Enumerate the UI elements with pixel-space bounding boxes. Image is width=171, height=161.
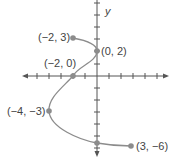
point-label-0-2: (0, 2) <box>101 46 127 57</box>
y-axis-label: y <box>105 5 111 17</box>
y-axis-down-arrow-icon <box>95 151 100 157</box>
point-label-neg2-0: (−2, 0) <box>44 58 76 69</box>
point-label-neg4-neg3: (−4, −3) <box>7 106 46 117</box>
x-axis-left-arrow-icon <box>22 74 28 79</box>
coordinate-plane <box>0 0 171 161</box>
point-label-3-neg6: (3, −6) <box>136 141 168 152</box>
point-label-neg2-3: (−2, 3) <box>38 32 70 43</box>
x-axis-right-arrow-icon <box>163 74 169 79</box>
